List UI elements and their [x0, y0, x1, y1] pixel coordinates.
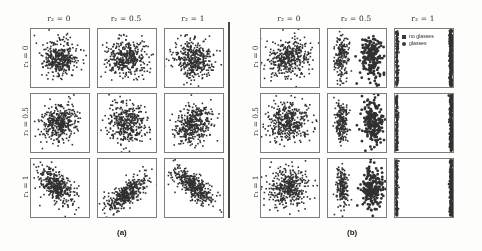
scatter-canvas — [328, 29, 386, 87]
scatter-cell-a-r2-c0 — [30, 158, 90, 218]
scatter-canvas — [31, 94, 89, 152]
scatter-cell-b-r1-c1 — [327, 93, 387, 153]
scatter-canvas — [395, 94, 453, 152]
scatter-canvas — [165, 29, 223, 87]
scatter-canvas — [165, 159, 223, 217]
scatter-cell-a-r2-c2 — [164, 158, 224, 218]
scatter-canvas — [98, 29, 156, 87]
panel-a-col-header-1: r₂ = 0.5 — [97, 14, 155, 23]
scatter-cell-b-r0-c1 — [327, 28, 387, 88]
scatter-canvas — [31, 29, 89, 87]
scatter-canvas — [261, 94, 319, 152]
scatter-cell-b-r0-c0 — [260, 28, 320, 88]
legend-label: glasses — [409, 40, 427, 47]
panel-a-row-label-0: r₁ = 0 — [21, 28, 30, 86]
scatter-cell-a-r1-c0 — [30, 93, 90, 153]
legend-entry-0: no glasses — [402, 33, 434, 40]
panel-a: r₂ = 0 r₂ = 0.5 r₂ = 1 r₁ = 0 r₁ = 0.5 r… — [0, 0, 228, 251]
panel-a-row-label-1: r₁ = 0.5 — [21, 93, 30, 151]
scatter-cell-b-r2-c0 — [260, 158, 320, 218]
legend: no glassesglasses — [402, 33, 434, 48]
scatter-canvas — [328, 94, 386, 152]
scatter-canvas — [165, 94, 223, 152]
scatter-cell-b-r1-c2 — [394, 93, 454, 153]
legend-label: no glasses — [409, 33, 434, 40]
scatter-cell-a-r2-c1 — [97, 158, 157, 218]
panel-a-col-header-2: r₂ = 1 — [164, 14, 222, 23]
scatter-cell-b-r0-c2: no glassesglasses — [394, 28, 454, 88]
square-marker-icon — [402, 35, 406, 39]
scatter-cell-a-r1-c2 — [164, 93, 224, 153]
scatter-cell-a-r0-c2 — [164, 28, 224, 88]
circle-marker-icon — [402, 42, 406, 46]
scatter-canvas — [98, 159, 156, 217]
scatter-grid-figure: r₂ = 0 r₂ = 0.5 r₂ = 1 r₁ = 0 r₁ = 0.5 r… — [0, 0, 482, 251]
scatter-cell-b-r2-c2 — [394, 158, 454, 218]
panel-b: r₂ = 0 r₂ = 0.5 r₂ = 1 r₁ = 0 r₁ = 0.5 r… — [230, 0, 482, 251]
scatter-canvas — [261, 159, 319, 217]
panel-b-caption: (b) — [347, 228, 357, 237]
panel-b-row-label-1: r₁ = 0.5 — [251, 93, 260, 151]
scatter-cell-a-r0-c1 — [97, 28, 157, 88]
panel-b-row-label-0: r₁ = 0 — [251, 28, 260, 86]
panel-a-caption: (a) — [117, 228, 127, 237]
panel-b-col-header-0: r₂ = 0 — [260, 14, 318, 23]
panel-b-col-header-1: r₂ = 0.5 — [327, 14, 385, 23]
scatter-canvas — [261, 29, 319, 87]
scatter-canvas — [31, 159, 89, 217]
scatter-canvas — [98, 94, 156, 152]
panel-b-col-header-2: r₂ = 1 — [394, 14, 452, 23]
scatter-canvas — [395, 159, 453, 217]
scatter-canvas — [328, 159, 386, 217]
panel-a-row-label-2: r₁ = 1 — [21, 158, 30, 216]
panel-a-col-header-0: r₂ = 0 — [30, 14, 88, 23]
scatter-cell-b-r2-c1 — [327, 158, 387, 218]
scatter-cell-b-r1-c0 — [260, 93, 320, 153]
panel-b-row-label-2: r₁ = 1 — [251, 158, 260, 216]
legend-entry-1: glasses — [402, 40, 434, 47]
scatter-cell-a-r1-c1 — [97, 93, 157, 153]
scatter-cell-a-r0-c0 — [30, 28, 90, 88]
